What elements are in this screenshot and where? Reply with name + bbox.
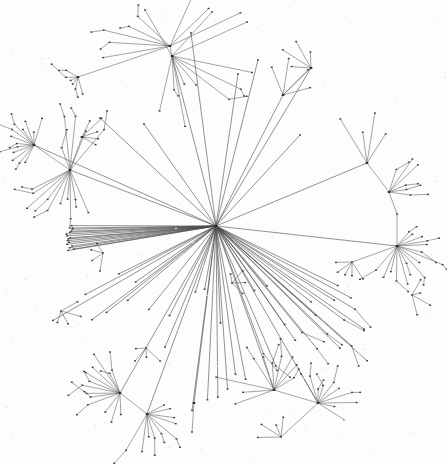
graph-node [137,4,139,5]
graph-node [143,123,145,124]
scan-speckle [4,179,6,181]
scan-speckle [25,278,27,279]
graph-hub-node [310,67,313,69]
scan-speckle [344,17,346,18]
scan-speckle [271,3,273,4]
graph-node [337,285,339,286]
scan-speckle [66,153,67,154]
scan-speckle [388,343,389,344]
scan-speckle [267,303,268,304]
graph-node [293,377,295,378]
graph-node [65,77,67,78]
graph-node [144,9,146,10]
graph-node [408,162,410,163]
scan-speckle [289,31,290,32]
graph-node [109,351,111,352]
graph-node [242,392,244,393]
scan-speckle [54,160,56,161]
graph-node [85,372,87,373]
graph-node [69,247,71,248]
graph-node [419,292,421,293]
graph-node [333,300,335,301]
scan-speckle [175,51,176,52]
scan-speckle [333,197,334,198]
scan-speckle [265,354,266,355]
graph-node [16,143,18,144]
scan-speckle [181,83,182,84]
graph-node [75,206,77,207]
scan-speckle [344,291,345,293]
graph-node [406,189,408,190]
graph-node [128,26,130,27]
graph-node [288,58,290,59]
graph-node [407,283,409,284]
graph-node [83,391,85,392]
scan-speckle [127,318,129,319]
graph-node [257,437,259,438]
graph-node [33,216,35,217]
graph-node [67,198,69,199]
graph-node [408,231,410,232]
graph-node [337,365,339,366]
scan-speckle [101,414,103,415]
graph-node [176,438,178,439]
scan-speckle [275,164,276,165]
scan-speckle [407,84,409,85]
graph-node [67,250,69,251]
graph-node [409,194,411,195]
graph-node [148,309,150,310]
graph-node [424,277,426,278]
scan-speckle [16,451,17,452]
graph-node [93,354,95,355]
scan-speckle [257,27,259,28]
scan-speckle [428,122,429,123]
graph-node [409,274,411,275]
graph-node [58,70,60,71]
graph-node [72,83,74,84]
graph-node [17,146,19,147]
graph-hub-node [366,162,369,164]
graph-node [161,433,163,434]
graph-node [208,8,210,9]
scan-speckle [403,191,405,192]
scan-speckle [335,372,336,373]
scan-speckle [13,248,14,250]
graph-node [289,376,291,377]
scan-speckle [185,192,187,193]
scan-speckle [99,258,101,260]
scan-speckle [47,14,49,15]
graph-node [91,319,93,320]
scan-speckle [243,369,245,370]
graph-node [351,392,353,393]
graph-node [100,48,102,49]
graph-node [362,132,364,133]
scan-speckle [146,342,147,343]
graph-hub-node [396,245,399,247]
graph-node [67,240,69,241]
graph-node [390,271,392,272]
graph-node [163,404,165,405]
graph-node [159,110,161,111]
graph-node [184,126,186,127]
scan-speckle [395,97,396,99]
scan-speckle [161,462,163,463]
scan-speckle [17,275,18,277]
scan-speckle [413,194,414,195]
graph-node [154,455,156,456]
scan-speckle [342,407,343,409]
graph-node [244,282,246,283]
scan-speckle [128,208,129,210]
graph-node [438,238,440,239]
graph-node [416,226,418,227]
scan-speckle [77,323,79,324]
graph-node [175,423,177,424]
graph-node [11,129,13,130]
scan-speckle [23,436,24,437]
scan-speckle [368,83,369,85]
graph-node [281,356,283,357]
graph-node [351,275,353,276]
graph-node [14,189,16,190]
scan-speckle [347,287,349,288]
scan-speckle [247,462,249,463]
graph-hub-node [77,76,80,78]
